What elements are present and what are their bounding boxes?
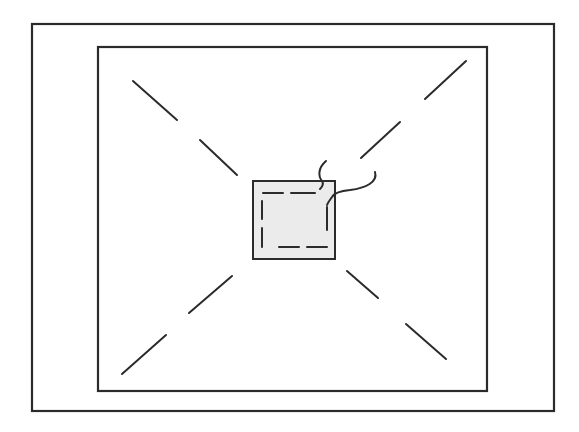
- diagonal-segment-bottom-right-inner: [347, 271, 378, 298]
- diagonal-segment-bottom-left-inner: [189, 276, 232, 313]
- diagonal-segment-top-left-inner: [200, 140, 237, 175]
- diagram-canvas: Line drawing: square sheet within a fram…: [0, 0, 579, 432]
- diagonal-segment-top-right-outer: [425, 61, 466, 99]
- diagonal-segment-bottom-right-outer: [406, 324, 446, 359]
- diagonal-segment-bottom-left-outer: [122, 335, 166, 374]
- diagonal-segment-top-left-outer: [133, 81, 177, 120]
- diagonal-segment-top-right-inner: [361, 122, 400, 158]
